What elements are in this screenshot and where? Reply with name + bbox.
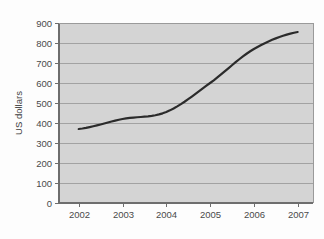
x-tick-label: 2006 xyxy=(244,209,265,220)
x-tick-label: 2004 xyxy=(156,209,177,220)
y-tick-label: 0 xyxy=(47,198,52,209)
y-tick-label: 300 xyxy=(36,138,52,149)
y-tick-label: 400 xyxy=(36,118,52,129)
x-tick-label: 2005 xyxy=(200,209,221,220)
y-tick-label: 900 xyxy=(36,18,52,29)
x-tick-label: 2002 xyxy=(69,209,90,220)
y-tick-label: 600 xyxy=(36,78,52,89)
y-tick-label: 200 xyxy=(36,158,52,169)
y-tick-label: 700 xyxy=(36,58,52,69)
y-tick-label: 800 xyxy=(36,38,52,49)
y-tick-label: 100 xyxy=(36,178,52,189)
y-axis-tick-labels: 9008007006005004003002001000 xyxy=(36,18,52,209)
x-axis-ticks xyxy=(80,203,299,207)
x-tick-label: 2007 xyxy=(288,209,309,220)
x-tick-label: 2003 xyxy=(113,209,134,220)
y-axis-title: US dollars xyxy=(13,91,24,135)
x-axis-tick-labels: 200220032004200520062007 xyxy=(69,209,309,220)
y-tick-label: 500 xyxy=(36,98,52,109)
plot-area-background xyxy=(59,23,313,203)
chart-figure: 9008007006005004003002001000 20022003200… xyxy=(0,0,324,239)
line-chart: 9008007006005004003002001000 20022003200… xyxy=(0,0,324,239)
